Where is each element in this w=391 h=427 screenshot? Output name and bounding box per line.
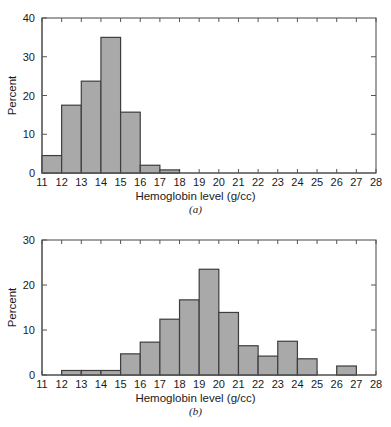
histogram-bar bbox=[140, 342, 160, 375]
histogram-bar bbox=[42, 156, 62, 173]
x-tick-label: 17 bbox=[154, 378, 166, 389]
histogram-bar bbox=[278, 341, 298, 375]
x-tick-label: 22 bbox=[252, 176, 264, 188]
panel-b-plot: 1112131415161718192021222324252627280102… bbox=[0, 214, 391, 389]
histogram-bar bbox=[101, 371, 121, 376]
panel-b-caption: (b) bbox=[0, 405, 391, 417]
y-axis-title: Percent bbox=[6, 75, 18, 115]
panel-a-xaxis-title: Hemoglobin level (g/cc) bbox=[0, 190, 391, 202]
histogram-bar bbox=[180, 300, 200, 375]
y-tick-label: 0 bbox=[29, 167, 35, 179]
histogram-bar bbox=[258, 356, 278, 375]
x-tick-label: 27 bbox=[350, 378, 362, 389]
x-tick-label: 25 bbox=[311, 378, 323, 389]
histogram-bar bbox=[297, 359, 317, 375]
x-tick-label: 23 bbox=[272, 176, 284, 188]
x-tick-label: 23 bbox=[272, 378, 284, 389]
x-tick-label: 22 bbox=[252, 378, 264, 389]
histogram-bar bbox=[81, 371, 101, 376]
y-axis-title: Percent bbox=[6, 287, 18, 327]
histogram-bar bbox=[101, 37, 121, 173]
x-tick-label: 24 bbox=[291, 378, 303, 389]
x-tick-label: 13 bbox=[75, 176, 87, 188]
histogram-bar bbox=[199, 269, 219, 375]
x-tick-label: 18 bbox=[173, 378, 185, 389]
histogram-bar bbox=[140, 165, 160, 173]
histogram-bar bbox=[62, 371, 82, 376]
histogram-bar bbox=[337, 366, 357, 375]
x-tick-label: 13 bbox=[75, 378, 87, 389]
x-tick-label: 18 bbox=[173, 176, 185, 188]
y-tick-label: 10 bbox=[23, 324, 35, 336]
x-tick-label: 16 bbox=[134, 378, 146, 389]
histogram-bar bbox=[238, 346, 258, 375]
x-tick-label: 21 bbox=[232, 176, 244, 188]
y-tick-label: 30 bbox=[23, 51, 35, 63]
x-tick-label: 19 bbox=[193, 176, 205, 188]
panel-a-plot: 1112131415161718192021222324252627280102… bbox=[0, 0, 391, 214]
panel-a: 1112131415161718192021222324252627280102… bbox=[0, 0, 391, 214]
x-tick-label: 17 bbox=[154, 176, 166, 188]
histogram-bar bbox=[121, 112, 141, 173]
x-tick-label: 28 bbox=[370, 378, 382, 389]
y-tick-label: 20 bbox=[23, 90, 35, 102]
x-tick-label: 12 bbox=[56, 176, 68, 188]
x-tick-label: 25 bbox=[311, 176, 323, 188]
x-tick-label: 11 bbox=[36, 176, 47, 188]
x-tick-label: 12 bbox=[56, 378, 68, 389]
y-tick-label: 0 bbox=[29, 369, 35, 381]
panel-b-xaxis-title: Hemoglobin level (g/cc) bbox=[0, 392, 391, 404]
x-tick-label: 28 bbox=[370, 176, 382, 188]
histogram-bar bbox=[160, 319, 180, 375]
x-tick-label: 21 bbox=[232, 378, 244, 389]
y-tick-label: 30 bbox=[23, 234, 35, 246]
histogram-figure: 1112131415161718192021222324252627280102… bbox=[0, 0, 391, 427]
y-tick-label: 10 bbox=[23, 128, 35, 140]
y-tick-label: 40 bbox=[23, 12, 35, 24]
x-tick-label: 14 bbox=[95, 176, 107, 188]
y-tick-label: 20 bbox=[23, 279, 35, 291]
x-tick-label: 24 bbox=[291, 176, 303, 188]
x-tick-label: 26 bbox=[331, 378, 343, 389]
x-tick-label: 15 bbox=[114, 176, 126, 188]
histogram-bar bbox=[219, 312, 239, 375]
x-tick-label: 14 bbox=[95, 378, 107, 389]
histogram-bar bbox=[81, 81, 101, 173]
x-tick-label: 15 bbox=[114, 378, 126, 389]
x-tick-label: 16 bbox=[134, 176, 146, 188]
panel-b: 1112131415161718192021222324252627280102… bbox=[0, 214, 391, 427]
histogram-bar bbox=[62, 105, 82, 173]
x-tick-label: 20 bbox=[213, 378, 225, 389]
x-tick-label: 20 bbox=[213, 176, 225, 188]
histogram-bar bbox=[121, 354, 141, 375]
x-tick-label: 26 bbox=[331, 176, 343, 188]
x-tick-label: 19 bbox=[193, 378, 205, 389]
x-tick-label: 11 bbox=[36, 378, 47, 389]
x-tick-label: 27 bbox=[350, 176, 362, 188]
